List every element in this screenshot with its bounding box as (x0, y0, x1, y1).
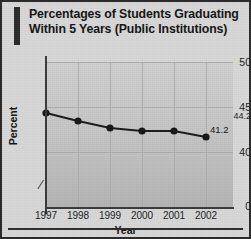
data-point-1998 (74, 117, 81, 124)
data-point-1999 (106, 124, 113, 131)
y-tick-50: 50 (211, 56, 251, 68)
y-axis-line (45, 56, 47, 214)
y-tick-40: 40 (211, 146, 251, 158)
chart-title: Percentages of Students Graduating Withi… (14, 7, 242, 49)
data-point-2002 (202, 133, 209, 140)
data-label-2002: 41.2 (210, 124, 229, 135)
x-tick-2002: 2002 (186, 210, 226, 221)
data-point-2001 (170, 127, 177, 134)
series-layer (0, 50, 251, 220)
y-value-44-2: 44.2 (211, 111, 251, 121)
y-axis-break-icon: ⁄ (40, 178, 42, 191)
title-line-2: Within 5 Years (Public Institutions) (29, 22, 239, 37)
title-line-1: Percentages of Students Graduating (29, 7, 239, 21)
title-accent-bar (14, 7, 20, 45)
x-axis-label: Year (0, 224, 251, 236)
x-axis-line (45, 207, 234, 209)
title-text: Percentages of Students Graduating Withi… (29, 7, 239, 37)
data-point-2000 (138, 127, 145, 134)
data-line (46, 113, 206, 137)
bottom-rule (8, 228, 243, 230)
line-chart: 50 45 40 0 44.2 ⁄ 41.2 1997 1998 1999 20… (0, 50, 251, 220)
y-axis-label: Percent (7, 91, 19, 161)
